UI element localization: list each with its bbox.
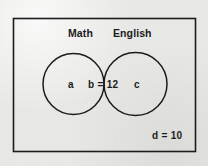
math-only-region-label: a <box>68 80 74 90</box>
english-only-region-label: c <box>134 80 140 90</box>
english-set-title: English <box>113 28 152 39</box>
outside-region-label: d = 10 <box>152 131 182 141</box>
venn-diagram-figure: Math English a b = 12 c d = 10 <box>0 0 208 166</box>
intersection-region-label: b = 12 <box>88 80 118 90</box>
math-set-title: Math <box>68 28 93 39</box>
